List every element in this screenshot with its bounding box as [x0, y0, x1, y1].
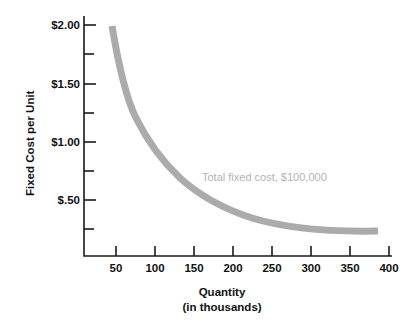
x-axis-title: Quantity	[199, 286, 246, 298]
x-tick-label-200: 200	[223, 262, 242, 274]
y-axis-title: Fixed Cost per Unit	[24, 90, 36, 196]
y-tick-label-1-50: $1.50	[51, 78, 80, 90]
y-axis-ticks	[84, 25, 96, 229]
x-tick-label-150: 150	[184, 262, 203, 274]
fixed-cost-curve	[112, 26, 378, 231]
y-axis-tick-labels: $2.00 $1.50 $1.00 $.50	[51, 19, 80, 206]
x-tick-label-300: 300	[301, 262, 320, 274]
x-tick-label-100: 100	[145, 262, 164, 274]
x-axis-ticks	[116, 246, 389, 256]
x-axis-subtitle: (in thousands)	[182, 301, 261, 313]
y-tick-label-0-50: $.50	[58, 194, 80, 206]
x-axis-tick-labels: 50 100 150 200 250 300 350 400	[110, 262, 399, 274]
y-tick-label-1-00: $1.00	[51, 136, 80, 148]
y-tick-label-2-00: $2.00	[51, 19, 80, 31]
curve-annotation-label: Total fixed cost, $100,000	[202, 171, 327, 183]
x-tick-label-250: 250	[262, 262, 281, 274]
x-tick-label-350: 350	[340, 262, 359, 274]
x-tick-label-400: 400	[379, 262, 398, 274]
chart-figure: $2.00 $1.50 $1.00 $.50 50 100 150 200 25…	[0, 0, 411, 328]
fixed-cost-per-unit-chart: $2.00 $1.50 $1.00 $.50 50 100 150 200 25…	[0, 0, 411, 328]
x-tick-label-50: 50	[110, 262, 123, 274]
chart-axes	[84, 16, 392, 256]
